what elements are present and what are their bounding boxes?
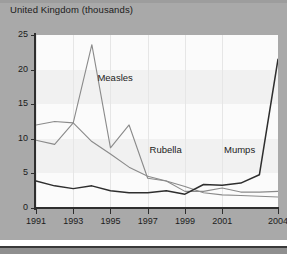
y-tick-label-0: 0 [4,202,28,212]
x-axis-line [34,207,279,209]
y-tick-label-25: 25 [4,29,28,39]
y-tick-20 [31,70,35,71]
x-tick-1991 [36,209,37,214]
y-tick-0 [31,208,35,209]
x-tick-label-2001: 2001 [202,216,242,226]
x-tick-label-1999: 1999 [165,216,205,226]
series-label-rubella: Rubella [150,144,182,155]
y-tick-15 [31,104,35,105]
x-tick-2001 [222,209,223,214]
x-tick-label-1993: 1993 [53,216,93,226]
y-tick-label-15: 15 [4,98,28,108]
series-line-mumps [36,59,278,194]
y-axis-line [34,33,36,210]
chart-title: United Kingdom (thousands) [10,4,133,15]
series-lines [36,35,278,208]
x-tick-1993 [73,209,74,214]
series-label-mumps: Mumps [224,144,255,155]
x-tick-label-2004: 2004 [258,216,287,226]
y-tick-label-20: 20 [4,64,28,74]
y-tick-5 [31,173,35,174]
panel-top-edge [0,0,287,3]
x-tick-1999 [185,209,186,214]
x-tick-1995 [110,209,111,214]
y-tick-10 [31,139,35,140]
series-label-measles: Measles [97,72,132,83]
plot-area [36,35,278,208]
series-line-rubella [36,122,278,197]
y-tick-25 [31,35,35,36]
x-tick-2004 [278,209,279,214]
x-tick-label-1991: 1991 [16,216,56,226]
x-tick-1997 [148,209,149,214]
y-tick-label-5: 5 [4,167,28,177]
bottom-bar-rule [0,246,287,248]
x-tick-label-1995: 1995 [90,216,130,226]
x-tick-label-1997: 1997 [128,216,168,226]
chart-figure: United Kingdom (thousands) 0510152025 19… [0,0,287,254]
series-line-measles [36,45,278,192]
y-tick-label-10: 10 [4,133,28,143]
